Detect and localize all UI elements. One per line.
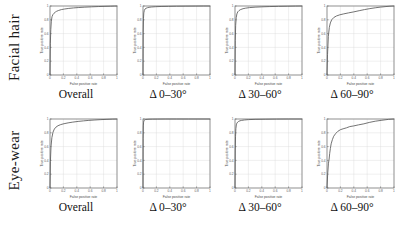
svg-text:0.8: 0.8 <box>194 189 199 193</box>
svg-text:1: 1 <box>116 76 118 80</box>
svg-text:1: 1 <box>324 117 326 121</box>
svg-text:True positive rate: True positive rate <box>133 27 137 53</box>
svg-text:True positive rate: True positive rate <box>225 27 229 53</box>
svg-text:0.4: 0.4 <box>44 46 49 50</box>
svg-text:0: 0 <box>140 186 142 190</box>
caption-strip-row-1: Overall Δ 0–30° Δ 30–60° Δ 60–90° <box>30 88 400 112</box>
caption-30-60: Δ 30–60° <box>214 88 306 100</box>
svg-text:False positive rate: False positive rate <box>347 82 375 86</box>
svg-text:0.8: 0.8 <box>321 131 326 135</box>
caption-overall: Overall <box>30 88 122 100</box>
svg-text:0.8: 0.8 <box>137 131 142 135</box>
roc-panel-facial-hair-60-90: 000.20.20.40.40.60.60.80.811False positi… <box>310 2 398 90</box>
caption-60-90: Δ 60–90° <box>306 88 398 100</box>
svg-text:1: 1 <box>47 117 49 121</box>
svg-text:0.4: 0.4 <box>352 189 357 193</box>
roc-panel-eye-wear-0-30: 000.20.20.40.40.60.60.80.811False positi… <box>126 115 214 203</box>
svg-text:0: 0 <box>142 76 144 80</box>
svg-text:0.4: 0.4 <box>260 76 265 80</box>
svg-text:0.2: 0.2 <box>137 59 142 63</box>
svg-text:0.4: 0.4 <box>44 159 49 163</box>
row-label-text: Eye-wear <box>7 131 24 191</box>
svg-text:0.2: 0.2 <box>321 59 326 63</box>
svg-text:0.8: 0.8 <box>101 76 106 80</box>
svg-text:0: 0 <box>47 73 49 77</box>
svg-text:0.2: 0.2 <box>229 172 234 176</box>
svg-text:0.6: 0.6 <box>229 32 234 36</box>
svg-text:0.4: 0.4 <box>321 46 326 50</box>
svg-text:0.6: 0.6 <box>137 32 142 36</box>
svg-text:True positive rate: True positive rate <box>317 140 321 166</box>
roc-panel-eye-wear-60-90: 000.20.20.40.40.60.60.80.811False positi… <box>310 115 398 203</box>
svg-text:0.8: 0.8 <box>229 131 234 135</box>
svg-text:0: 0 <box>326 76 328 80</box>
svg-text:0.4: 0.4 <box>137 159 142 163</box>
svg-text:0.2: 0.2 <box>154 76 159 80</box>
svg-text:0.8: 0.8 <box>44 18 49 22</box>
svg-text:0.6: 0.6 <box>229 145 234 149</box>
row-label-eye-wear: Eye-wear <box>0 113 30 208</box>
svg-text:0.8: 0.8 <box>286 189 291 193</box>
svg-text:0: 0 <box>234 76 236 80</box>
svg-text:0.4: 0.4 <box>260 189 265 193</box>
svg-text:1: 1 <box>232 4 234 8</box>
svg-text:0: 0 <box>232 73 234 77</box>
svg-text:0.4: 0.4 <box>229 46 234 50</box>
svg-text:0.2: 0.2 <box>246 76 251 80</box>
svg-text:0: 0 <box>47 186 49 190</box>
svg-text:1: 1 <box>116 189 118 193</box>
roc-panel-facial-hair-overall: 000.20.20.40.40.60.60.80.811False positi… <box>33 2 121 90</box>
svg-text:0: 0 <box>324 186 326 190</box>
svg-text:1: 1 <box>393 189 395 193</box>
svg-text:0: 0 <box>142 189 144 193</box>
svg-text:0.2: 0.2 <box>338 189 343 193</box>
svg-text:0.2: 0.2 <box>61 76 66 80</box>
svg-text:0: 0 <box>324 73 326 77</box>
svg-text:0.2: 0.2 <box>154 189 159 193</box>
svg-text:0.4: 0.4 <box>352 76 357 80</box>
svg-text:0.2: 0.2 <box>44 59 49 63</box>
caption-strip-row-2: Overall Δ 0–30° Δ 30–60° Δ 60–90° <box>30 201 400 225</box>
svg-text:0.8: 0.8 <box>286 76 291 80</box>
svg-text:0.8: 0.8 <box>378 189 383 193</box>
svg-text:0.6: 0.6 <box>44 32 49 36</box>
caption-30-60: Δ 30–60° <box>214 201 306 213</box>
svg-text:0.4: 0.4 <box>321 159 326 163</box>
caption-60-90: Δ 60–90° <box>306 201 398 213</box>
row-label-facial-hair: Facial hair <box>0 0 30 95</box>
svg-text:0: 0 <box>326 189 328 193</box>
roc-panel-eye-wear-30-60: 000.20.20.40.40.60.60.80.811False positi… <box>218 115 306 203</box>
svg-text:0.2: 0.2 <box>338 76 343 80</box>
svg-text:0.8: 0.8 <box>194 76 199 80</box>
svg-text:1: 1 <box>209 189 211 193</box>
svg-text:False positive rate: False positive rate <box>163 195 191 199</box>
svg-text:1: 1 <box>140 4 142 8</box>
svg-text:0.6: 0.6 <box>365 189 370 193</box>
svg-text:0.6: 0.6 <box>137 145 142 149</box>
svg-text:0.4: 0.4 <box>168 76 173 80</box>
svg-text:True positive rate: True positive rate <box>317 27 321 53</box>
panel-strip-row-2: 000.20.20.40.40.60.60.80.811False positi… <box>30 115 400 203</box>
svg-text:True positive rate: True positive rate <box>225 140 229 166</box>
svg-text:0.8: 0.8 <box>137 18 142 22</box>
svg-text:1: 1 <box>140 117 142 121</box>
svg-text:0.6: 0.6 <box>44 145 49 149</box>
svg-text:0.6: 0.6 <box>273 76 278 80</box>
svg-text:0.2: 0.2 <box>44 172 49 176</box>
panel-strip-row-1: 000.20.20.40.40.60.60.80.811False positi… <box>30 2 400 90</box>
svg-text:0.4: 0.4 <box>75 189 80 193</box>
roc-figure: Facial hair 000.20.20.40.40.60.60.80.811… <box>0 0 400 226</box>
figure-row-eye-wear: Eye-wear 000.20.20.40.40.60.60.80.811Fal… <box>0 113 400 226</box>
svg-text:False positive rate: False positive rate <box>163 82 191 86</box>
svg-text:True positive rate: True positive rate <box>133 140 137 166</box>
svg-text:1: 1 <box>324 4 326 8</box>
svg-text:0: 0 <box>234 189 236 193</box>
svg-text:0.8: 0.8 <box>229 18 234 22</box>
svg-text:0.6: 0.6 <box>181 189 186 193</box>
svg-text:0.6: 0.6 <box>181 76 186 80</box>
svg-text:True positive rate: True positive rate <box>40 140 44 166</box>
svg-text:0.2: 0.2 <box>137 172 142 176</box>
figure-row-facial-hair: Facial hair 000.20.20.40.40.60.60.80.811… <box>0 0 400 113</box>
svg-text:0: 0 <box>140 73 142 77</box>
row-label-text: Facial hair <box>7 14 24 81</box>
